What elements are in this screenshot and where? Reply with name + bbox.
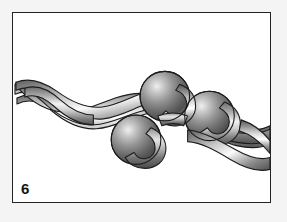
figure-panel: 6: [12, 12, 271, 203]
braid-illustration: [13, 13, 270, 202]
figure-number-label: 6: [21, 181, 29, 196]
